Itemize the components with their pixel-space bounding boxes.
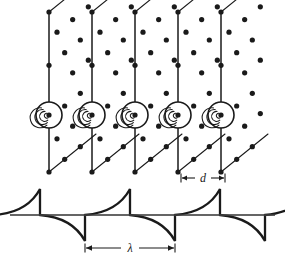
atom-dot-icon [199,124,204,129]
double-headed-arrow-icon [219,175,224,180]
atom-dot-icon [218,9,223,14]
atom-dot-icon [46,169,51,174]
atom-dot-icon [70,17,75,22]
wave-group [0,189,285,241]
atom-dot-icon [258,58,263,63]
wave-sources-group [30,102,234,128]
atom-dot-icon [105,157,110,162]
atom-dot-icon [215,4,220,9]
atom-dot-icon [191,50,196,55]
atom-dot-icon [258,111,263,116]
atom-dot-icon [234,50,239,55]
atom-dot-icon [78,91,83,96]
atom-dot-icon [97,30,102,35]
atom-dot-icon [175,9,180,14]
atom-dot-icon [113,124,118,129]
lattice-plane [135,0,182,172]
atom-dot-icon [175,169,180,174]
wavelength-marker: λ [85,241,175,255]
atom-dot-icon [70,124,75,129]
atom-dot-icon [132,169,137,174]
wave-source-center-dot [46,112,51,117]
atom-dot-icon [78,144,83,149]
atom-dot-icon [129,4,134,9]
atom-dot-icon [54,136,59,141]
lattice-plane [178,0,225,172]
atom-dot-icon [62,50,67,55]
atom-dots-group [46,4,263,174]
atom-dot-icon [226,136,231,141]
atom-dot-icon [113,70,118,75]
lattice-plane [221,0,268,172]
atom-dot-icon [199,17,204,22]
double-headed-arrow-icon [182,175,187,180]
wave-source-icon [202,102,234,128]
plane-spacing-marker: d [181,171,225,185]
atom-dot-icon [199,70,204,75]
atom-dot-icon [164,144,169,149]
atom-dot-icon [156,124,161,129]
atom-dot-icon [172,58,177,63]
atom-dot-icon [132,63,137,68]
atom-dot-icon [156,70,161,75]
atom-dot-icon [191,103,196,108]
double-headed-arrow-icon [168,245,174,251]
atom-dot-icon [148,50,153,55]
atom-dot-icon [89,9,94,14]
atom-dot-icon [89,169,94,174]
atom-dot-icon [207,37,212,42]
atom-dot-icon [242,124,247,129]
bragg-diffraction-figure: dλ [0,0,285,265]
lattice-plane [49,0,96,172]
atom-dot-icon [218,169,223,174]
atom-dot-icon [156,17,161,22]
plane-spacing-label: d [200,171,207,185]
atom-dot-icon [121,144,126,149]
atom-dot-icon [164,91,169,96]
atom-dot-icon [215,58,220,63]
atom-dot-icon [78,37,83,42]
atom-dot-icon [86,4,91,9]
atom-dot-icon [207,144,212,149]
atom-dot-icon [191,157,196,162]
atom-dot-icon [258,4,263,9]
atom-dot-icon [46,9,51,14]
atom-dot-icon [113,17,118,22]
double-headed-arrow-icon [86,245,92,251]
atom-dot-icon [140,136,145,141]
wave-source-center-dot [132,112,137,117]
atom-dot-icon [54,30,59,35]
figure-canvas: dλ [0,0,285,265]
atom-dot-icon [242,17,247,22]
atom-dot-icon [140,30,145,35]
wave-source-center-dot [89,112,94,117]
atom-dot-icon [97,136,102,141]
atom-dot-icon [207,91,212,96]
wavelength-label: λ [126,241,132,255]
atom-dot-icon [148,157,153,162]
atom-dot-icon [86,58,91,63]
atom-dot-icon [234,103,239,108]
atom-dot-icon [226,30,231,35]
atom-dot-icon [250,144,255,149]
atom-dot-icon [62,103,67,108]
wave-source-center-dot [175,112,180,117]
wave-source-icon [159,102,191,128]
atom-dot-icon [105,50,110,55]
atom-dot-icon [242,70,247,75]
atom-dot-icon [70,70,75,75]
atom-dot-icon [148,103,153,108]
wave-source-center-dot [218,112,223,117]
atom-dot-icon [234,157,239,162]
atom-dot-icon [164,37,169,42]
wave-source-icon [116,102,148,128]
atom-dot-icon [183,136,188,141]
atom-dot-icon [218,63,223,68]
atom-dot-icon [250,37,255,42]
atom-dot-icon [121,37,126,42]
wave-source-icon [30,102,62,128]
atom-dot-icon [89,63,94,68]
atom-dot-icon [172,4,177,9]
atom-dot-icon [121,91,126,96]
atom-dot-icon [250,91,255,96]
